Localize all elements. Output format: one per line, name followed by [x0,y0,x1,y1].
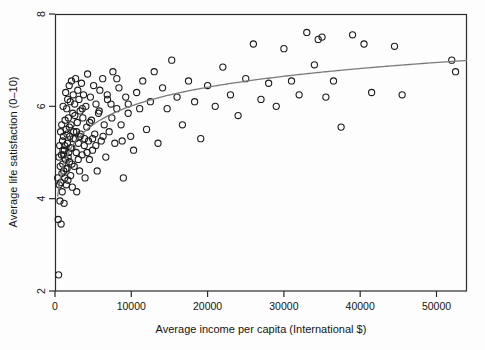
data-point [220,64,226,70]
data-point [258,96,264,102]
data-point [288,78,294,84]
data-point [110,69,116,75]
x-tick-label: 40000 [346,300,375,312]
data-point [75,87,81,93]
data-point [369,89,375,95]
y-tick-label: 8 [35,11,47,17]
data-point [227,92,233,98]
data-point [93,101,99,107]
data-point [80,92,86,98]
data-point [169,57,175,63]
data-point [82,175,88,181]
data-point [128,133,134,139]
data-point [296,92,302,98]
data-point [114,76,120,82]
data-point [106,129,112,135]
y-tick-label: 6 [35,103,47,109]
data-point [179,122,185,128]
data-point [84,71,90,77]
scatter-points-layer [55,29,459,278]
data-point [80,115,86,121]
data-point [137,106,143,112]
data-point [311,62,317,68]
data-point [273,103,279,109]
data-point [59,189,65,195]
data-point [281,46,287,52]
data-point [116,85,122,91]
data-point [100,76,106,82]
data-point [86,156,92,162]
data-point [75,156,81,162]
data-point [349,32,355,38]
data-point [93,142,99,148]
chart-figure: 2468 01000020000300004000050000 Average … [0,0,485,350]
data-point [123,94,129,100]
x-axis-ticks: 01000020000300004000050000 [52,291,451,312]
data-point [91,82,97,88]
data-point [391,43,397,49]
data-point [266,80,272,86]
data-point [125,110,131,116]
data-point [55,272,61,278]
data-point [87,94,93,100]
data-point [361,41,367,47]
data-point [452,69,458,75]
data-point [159,85,165,91]
data-point [101,122,107,128]
data-point [76,168,82,174]
scatter-plot-svg: 2468 01000020000300004000050000 Average … [0,0,485,350]
data-point [250,41,256,47]
x-tick-label: 0 [52,300,58,312]
data-point [399,92,405,98]
data-point [330,78,336,84]
data-point [151,69,157,75]
x-tick-label: 30000 [269,300,298,312]
data-point [235,112,241,118]
plot-frame [56,15,467,292]
data-point [143,126,149,132]
data-point [119,138,125,144]
data-point [134,89,140,95]
x-tick-label: 50000 [422,300,451,312]
data-point [97,87,103,93]
data-point [120,175,126,181]
data-point [338,124,344,130]
data-point [155,140,161,146]
data-point [212,103,218,109]
data-point [104,92,110,98]
y-tick-label: 2 [35,288,47,294]
data-point [140,78,146,84]
y-axis-ticks: 2468 [35,11,55,294]
data-point [58,221,64,227]
data-point [323,94,329,100]
x-axis-title: Average income per capita (International… [156,323,367,335]
data-point [73,149,79,155]
x-tick-label: 20000 [193,300,222,312]
data-point [74,189,80,195]
data-point [63,89,69,95]
y-axis-title: Average life satisfaction (0–10) [7,77,19,228]
data-point [103,154,109,160]
y-tick-label: 4 [35,196,47,202]
data-point [164,106,170,112]
data-point [94,168,100,174]
data-point [304,29,310,35]
data-point [118,122,124,128]
x-tick-label: 10000 [117,300,146,312]
data-point [112,140,118,146]
data-point [78,80,84,86]
data-point [109,115,115,121]
data-point [449,57,455,63]
data-point [192,99,198,105]
data-point [185,78,191,84]
data-point [198,136,204,142]
data-point [130,147,136,153]
data-point [108,101,114,107]
data-point [74,119,80,125]
data-point [174,94,180,100]
